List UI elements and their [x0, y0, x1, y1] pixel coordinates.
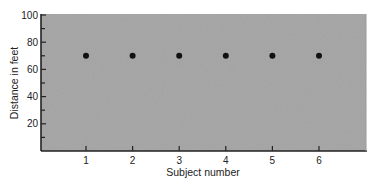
y-tick-label: 100	[21, 10, 38, 21]
scatter-chart: 20406080100 123456 Subject number Distan…	[0, 0, 373, 187]
y-axis-title: Distance in feet	[8, 47, 20, 119]
data-point	[269, 53, 275, 59]
y-tick-label: 20	[27, 118, 39, 129]
x-tick-label: 6	[316, 155, 322, 166]
x-tick-label: 1	[83, 155, 89, 166]
plot-area-texture	[41, 14, 366, 151]
y-tick-label: 40	[27, 91, 39, 102]
x-tick-label: 3	[176, 155, 182, 166]
data-point	[316, 53, 322, 59]
y-tick-label: 60	[27, 64, 39, 75]
x-axis-title: Subject number	[166, 166, 240, 178]
data-point	[83, 53, 89, 59]
x-tick-label: 4	[223, 155, 229, 166]
y-tick-label: 80	[27, 37, 39, 48]
x-tick-label: 5	[270, 155, 276, 166]
data-point	[176, 53, 182, 59]
data-point	[130, 53, 136, 59]
data-point	[223, 53, 229, 59]
x-tick-label: 2	[130, 155, 136, 166]
